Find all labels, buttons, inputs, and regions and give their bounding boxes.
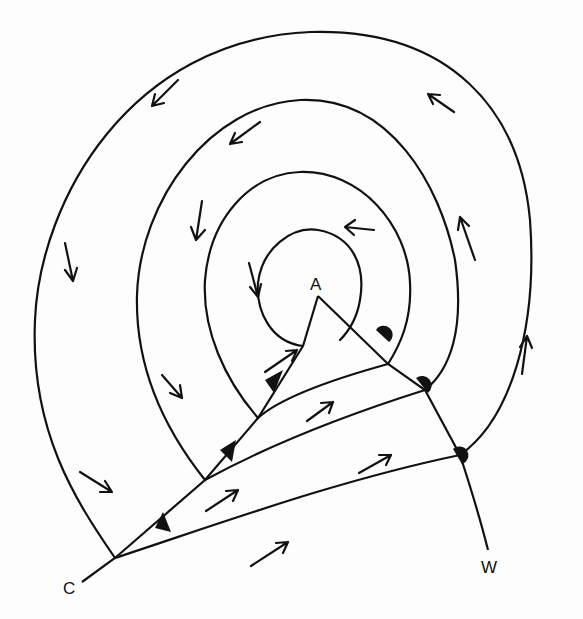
wind-arrow-icon — [230, 122, 260, 144]
occluded-front — [303, 296, 318, 346]
wind-arrow-icon — [345, 220, 374, 235]
wind-arrow-icon — [359, 455, 391, 473]
wind-arrow-icon — [65, 243, 77, 281]
wind-arrow-icon — [191, 201, 205, 240]
wind-arrow-icon — [206, 490, 238, 511]
warm-front-semicircle — [376, 326, 393, 342]
weather-diagram: A C W — [0, 0, 583, 619]
wind-arrow-icon — [152, 80, 178, 106]
wind-arrow-icon — [307, 402, 333, 421]
isobar-2 — [205, 172, 410, 418]
wind-arrow-icon — [458, 217, 475, 260]
isobar-4 — [35, 32, 532, 558]
wind-arrow-icon — [251, 542, 288, 566]
wind-arrow-icon — [428, 94, 454, 112]
wind-arrow-icon — [80, 472, 112, 492]
label-center-a: A — [310, 275, 322, 294]
wind-arrows — [65, 80, 532, 566]
wind-arrow-icon — [520, 336, 532, 374]
label-cold-front-c: C — [63, 579, 75, 598]
wind-arrow-icon — [162, 375, 182, 398]
label-warm-front-w: W — [481, 558, 497, 577]
wind-arrow-icon — [265, 350, 297, 372]
